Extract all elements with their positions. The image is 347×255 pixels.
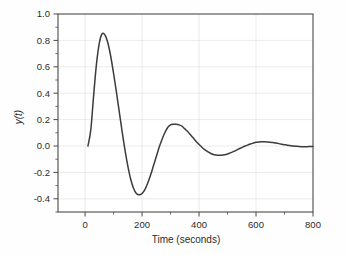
x-tick-label: 600 xyxy=(248,219,264,230)
y-tick-label: 0.4 xyxy=(37,88,50,99)
y-tick-label: 0.0 xyxy=(37,140,50,151)
y-tick-label: 1.0 xyxy=(37,8,50,19)
y-tick-label: 0.2 xyxy=(37,114,50,125)
x-tick-label: 800 xyxy=(305,219,321,230)
chart-figure: 0200400600800 -0.4-0.20.00.20.40.60.81.0… xyxy=(0,0,347,255)
line-chart-svg: 0200400600800 -0.4-0.20.00.20.40.60.81.0… xyxy=(0,0,347,255)
y-axis-title: y(t) xyxy=(13,110,24,125)
x-tick-labels: 0200400600800 xyxy=(82,219,321,230)
y-tick-label: 0.8 xyxy=(37,35,50,46)
y-tick-label: 0.6 xyxy=(37,61,50,72)
x-tick-label: 200 xyxy=(134,219,150,230)
y-tick-labels: -0.4-0.20.00.20.40.60.81.0 xyxy=(34,8,50,204)
plot-background xyxy=(58,14,313,212)
x-axis-title: Time (seconds) xyxy=(152,234,221,245)
y-tick-label: -0.2 xyxy=(34,167,50,178)
x-tick-label: 0 xyxy=(82,219,87,230)
y-tick-label: -0.4 xyxy=(34,193,50,204)
x-tick-label: 400 xyxy=(191,219,207,230)
